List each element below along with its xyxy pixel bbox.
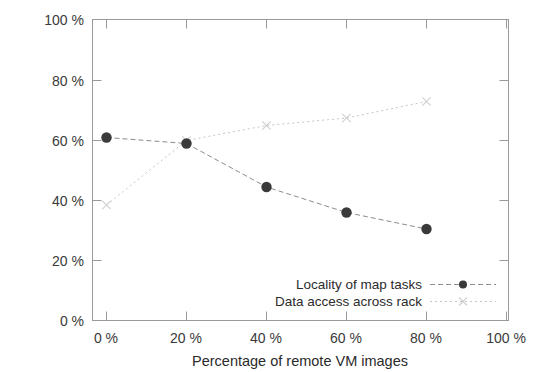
data-point xyxy=(261,182,271,192)
x-tick-label: 60 % xyxy=(330,330,362,346)
x-axis-title: Percentage of remote VM images xyxy=(192,353,408,369)
y-axis-tick-labels: 100 % 80 % 60 % 40 % 20 % 0 % xyxy=(44,12,84,329)
y-tick-label: 40 % xyxy=(52,193,84,209)
legend-label-data-access: Data access across rack xyxy=(275,294,422,309)
data-point xyxy=(341,207,351,217)
plot-frame xyxy=(93,20,509,321)
data-point xyxy=(102,201,110,209)
legend-swatch-marker-locality xyxy=(459,281,467,289)
chart-legend: Locality of map tasks Data access across… xyxy=(275,277,496,309)
y-tick-label: 100 % xyxy=(44,12,84,28)
series-data-access-across-rack xyxy=(102,97,430,209)
x-tick-label: 0 % xyxy=(94,330,118,346)
x-axis-tick-labels: 0 % 20 % 40 % 60 % 80 % 100 % xyxy=(94,330,526,346)
y-tick-label: 60 % xyxy=(52,133,84,149)
y-tick-label: 20 % xyxy=(52,253,84,269)
y-axis-ticks xyxy=(93,20,509,321)
y-tick-label: 80 % xyxy=(52,73,84,89)
x-tick-label: 100 % xyxy=(486,330,526,346)
x-tick-label: 40 % xyxy=(250,330,282,346)
x-axis-ticks xyxy=(107,20,507,321)
x-tick-label: 20 % xyxy=(170,330,202,346)
x-tick-label: 80 % xyxy=(410,330,442,346)
data-point xyxy=(262,121,270,129)
legend-label-locality: Locality of map tasks xyxy=(296,277,422,292)
series-locality-of-map-tasks xyxy=(101,132,431,234)
chart-canvas: 100 % 80 % 60 % 40 % 20 % 0 % 0 % 20 % 4… xyxy=(0,0,541,372)
data-point xyxy=(421,224,431,234)
y-tick-label: 0 % xyxy=(60,313,84,329)
data-point xyxy=(101,132,111,142)
chart-figure: 100 % 80 % 60 % 40 % 20 % 0 % 0 % 20 % 4… xyxy=(0,0,541,372)
data-point xyxy=(422,97,430,105)
data-point xyxy=(181,138,191,148)
